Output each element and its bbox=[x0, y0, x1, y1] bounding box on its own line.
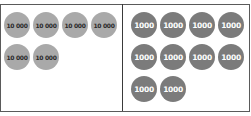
ten-thousand-counter: 10 000 bbox=[62, 12, 88, 38]
ten-thousand-counter: 10 000 bbox=[4, 12, 30, 38]
thousand-counter: 1000 bbox=[160, 76, 186, 102]
thousand-counter: 1000 bbox=[131, 12, 157, 38]
thousand-counter: 1000 bbox=[160, 12, 186, 38]
thousands-panel: 1000 1000 1000 1000 1000 1000 1000 1000 … bbox=[124, 4, 249, 111]
ten-thousand-counter: 10 000 bbox=[33, 12, 59, 38]
ten-thousands-panel: 10 000 10 000 10 000 10 000 10 000 10 00… bbox=[1, 4, 122, 111]
ten-thousand-counter: 10 000 bbox=[33, 44, 59, 70]
thousand-counter: 1000 bbox=[189, 44, 215, 70]
thousand-counter: 1000 bbox=[218, 44, 244, 70]
thousand-counter: 1000 bbox=[218, 12, 244, 38]
ten-thousand-counter: 10 000 bbox=[91, 12, 117, 38]
thousand-counter: 1000 bbox=[131, 44, 157, 70]
thousand-counter: 1000 bbox=[131, 76, 157, 102]
panel-divider bbox=[122, 4, 123, 111]
thousand-counter: 1000 bbox=[189, 12, 215, 38]
ten-thousand-counter: 10 000 bbox=[4, 44, 30, 70]
thousand-counter: 1000 bbox=[160, 44, 186, 70]
